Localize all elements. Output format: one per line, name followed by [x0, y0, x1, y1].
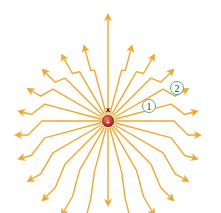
- field-line: [43, 126, 103, 200]
- svg-text:+: +: [105, 118, 110, 125]
- accelerated-charge-field-diagram: + x 1 2: [0, 0, 221, 213]
- field-line: [84, 46, 106, 114]
- field-lines: [16, 15, 200, 213]
- charge-icon: +: [102, 115, 114, 127]
- field-line: [113, 126, 173, 200]
- field-line: [62, 127, 105, 213]
- field-line: [43, 70, 103, 116]
- region-label-2: 2: [171, 82, 184, 95]
- region-label-1: 1: [143, 100, 156, 113]
- svg-text:1: 1: [147, 101, 152, 112]
- svg-text:2: 2: [175, 83, 180, 94]
- field-line: [19, 104, 101, 119]
- original-position-marker: x: [106, 106, 111, 114]
- field-line: [110, 46, 132, 114]
- field-line: [112, 127, 155, 213]
